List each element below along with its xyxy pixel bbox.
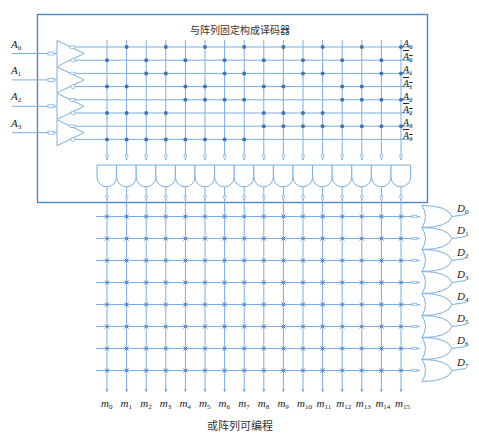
connection-dot-icon (301, 58, 305, 62)
arrow-icon (145, 196, 148, 200)
connection-dot-icon (379, 71, 383, 75)
connection-dot-icon (203, 45, 207, 49)
and-gate-icon (175, 165, 195, 187)
arrow-icon (380, 155, 383, 160)
minterm-label-m3: m3 (160, 398, 171, 411)
and-gate-icon (391, 165, 411, 187)
connection-dot-icon (183, 98, 187, 102)
pin-icon (412, 325, 417, 327)
or-gate-icon (422, 272, 452, 294)
arrow-icon (145, 389, 148, 392)
minterm-label-m6: m6 (219, 398, 230, 411)
connection-dot-icon (242, 71, 246, 75)
arrow-icon (380, 389, 383, 392)
minterm-label-m9: m9 (277, 398, 288, 411)
input-pin-icon (48, 131, 54, 134)
connection-dot-icon (203, 85, 207, 89)
buffer-triangle-icon (57, 67, 84, 93)
buffer-triangle-icon (57, 120, 84, 146)
arrow-icon (262, 196, 265, 200)
arrow-icon (106, 389, 109, 392)
minterm-label-m1: m1 (121, 398, 132, 411)
pin-icon (412, 347, 417, 349)
arrow-icon (125, 196, 128, 200)
arrow-icon (243, 155, 246, 160)
and-gate-icon (371, 165, 391, 187)
or-gate-icon (422, 206, 452, 228)
arrow-icon (302, 389, 305, 392)
connection-dot-icon (340, 124, 344, 128)
arrow-icon (105, 196, 108, 200)
row-label-a0: A0 (403, 39, 413, 51)
connection-dot-icon (105, 85, 109, 89)
arrow-icon (125, 155, 128, 160)
or-gate-icon (422, 250, 452, 272)
output-label-d1: D1 (457, 225, 468, 238)
arrow-icon (204, 389, 207, 392)
connection-dot-icon (360, 45, 364, 49)
arrow-icon (282, 196, 285, 200)
inverter-bubble-icon (71, 58, 75, 62)
arrow-icon (262, 389, 265, 392)
connection-dot-icon (125, 137, 129, 141)
connection-dot-icon (223, 71, 227, 75)
pin-icon (412, 303, 417, 305)
connection-dot-icon (301, 124, 305, 128)
connection-dot-icon (281, 45, 285, 49)
connection-dot-icon (105, 137, 109, 141)
minterm-label-m11: m11 (317, 398, 332, 411)
connection-dot-icon (203, 137, 207, 141)
connection-dot-icon (164, 71, 168, 75)
connection-dot-icon (340, 85, 344, 89)
row-label-a1: A1 (403, 65, 413, 77)
output-label-d3: D3 (457, 269, 468, 282)
arrow-icon (282, 155, 285, 160)
arrow-icon (243, 389, 246, 392)
connection-dot-icon (340, 98, 344, 102)
connection-dot-icon (262, 111, 266, 115)
pin-icon (412, 369, 417, 371)
arrow-icon (282, 389, 285, 392)
minterm-label-m10: m10 (297, 398, 312, 411)
minterm-label-m14: m14 (375, 398, 390, 411)
connection-dot-icon (321, 71, 325, 75)
and-gate-icon (97, 165, 117, 187)
pin-icon (70, 125, 75, 127)
connection-dot-icon (262, 58, 266, 62)
arrow-icon (341, 155, 344, 160)
arrow-icon (223, 196, 226, 200)
connection-dot-icon (379, 124, 383, 128)
output-label-d5: D5 (457, 313, 468, 326)
arrow-icon (243, 196, 246, 200)
row-label-not-a2: A2 (403, 105, 413, 117)
and-gate-icon (273, 165, 293, 187)
and-gate-icon (215, 165, 235, 187)
connection-dot-icon (242, 45, 246, 49)
or-array-caption: 或阵列可编程 (207, 417, 273, 433)
output-label-d2: D2 (457, 247, 468, 260)
output-label-d7: D7 (457, 357, 468, 370)
or-gate-icon (422, 228, 452, 250)
connection-dot-icon (242, 137, 246, 141)
arrow-icon (341, 389, 344, 392)
minterm-label-m2: m2 (140, 398, 151, 411)
connection-dot-icon (223, 98, 227, 102)
arrow-icon (184, 196, 187, 200)
minterm-label-m15: m15 (395, 398, 410, 411)
connection-dot-icon (281, 85, 285, 89)
arrow-icon (301, 155, 304, 160)
connection-dot-icon (125, 45, 129, 49)
pin-icon (70, 99, 75, 101)
and-gate-icon (254, 165, 274, 187)
arrow-icon (203, 196, 206, 200)
connection-dot-icon (340, 58, 344, 62)
rom-pla-diagram: 与阵列固定构成译码器 或阵列可编程 A0A1A2A3A0A0A1A1A2A2A3… (0, 0, 479, 438)
row-label-not-a1: A1 (403, 79, 413, 91)
connection-dot-icon (203, 98, 207, 102)
and-gate-icon (195, 165, 215, 187)
and-gate-icon (332, 165, 352, 187)
pin-icon (70, 46, 75, 48)
minterm-label-m0: m0 (101, 398, 112, 411)
arrow-icon (399, 196, 402, 200)
connection-dot-icon (144, 111, 148, 115)
